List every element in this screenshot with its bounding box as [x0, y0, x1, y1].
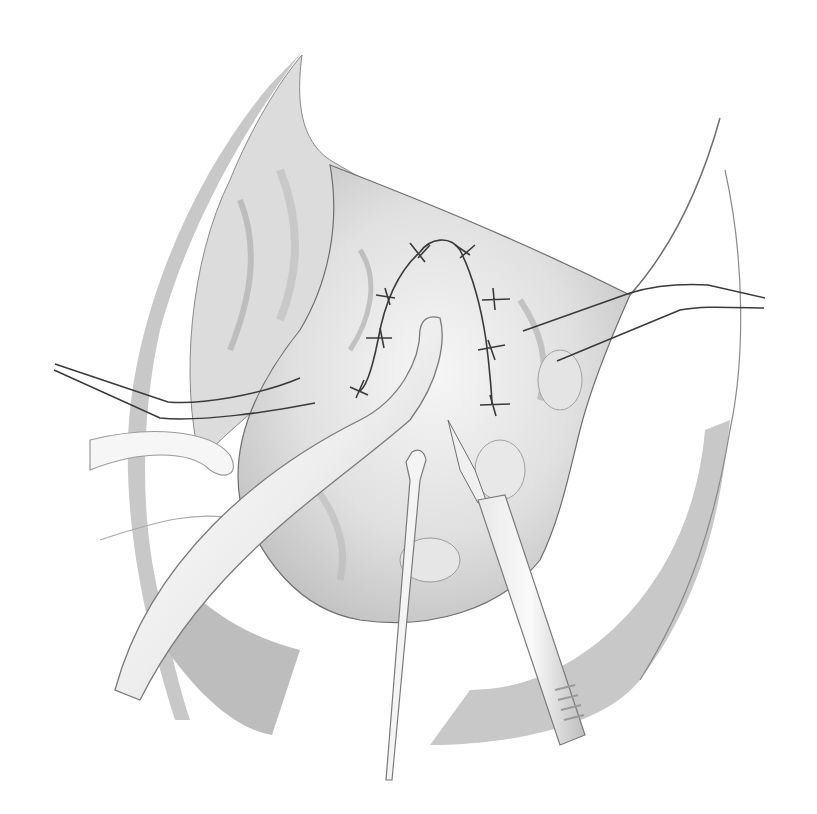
surgical-illustration: [0, 0, 817, 814]
illustration-svg: [0, 0, 817, 814]
